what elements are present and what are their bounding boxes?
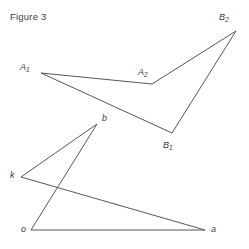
- vertex-label-b: b: [102, 114, 107, 123]
- vertex-label-a: a: [211, 225, 216, 234]
- vertex-label-b-base: b: [102, 113, 107, 123]
- upper-quadrilateral: [41, 31, 236, 133]
- vertex-label-B2-subscript: 2: [225, 16, 229, 23]
- vertex-label-A1-subscript: 1: [26, 66, 30, 73]
- vertex-label-A2: A2: [138, 68, 148, 77]
- vertex-label-o: o: [21, 225, 26, 234]
- vertex-label-B1: B1: [163, 141, 173, 150]
- figure-container: Figure 3 A1A2B2B1bkoa: [0, 0, 249, 249]
- vertex-label-a-base: a: [211, 224, 216, 234]
- lower-figure-o-b: [31, 124, 97, 230]
- vertex-label-k: k: [10, 171, 15, 180]
- vertex-label-o-base: o: [21, 224, 26, 234]
- lower-figure-k-a: [21, 177, 205, 230]
- vertex-label-B2: B2: [219, 13, 229, 22]
- geometry-diagram: [0, 0, 249, 249]
- lower-figure-k-b: [21, 124, 97, 177]
- vertex-label-B1-subscript: 1: [169, 144, 173, 151]
- vertex-label-A1: A1: [20, 63, 30, 72]
- vertex-label-k-base: k: [10, 170, 15, 180]
- vertex-label-A2-subscript: 2: [144, 71, 148, 78]
- shape-layer: [21, 31, 236, 230]
